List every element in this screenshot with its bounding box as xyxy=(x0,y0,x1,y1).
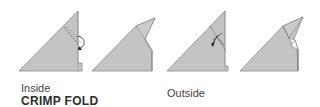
inside-step-1-diagram xyxy=(19,11,84,71)
crimp-fold-diagrams xyxy=(0,0,320,75)
outside-caption: Outside xyxy=(167,87,205,99)
figure-title: CRIMP FOLD xyxy=(21,94,98,107)
outside-step-1-diagram xyxy=(167,11,228,71)
inside-step-2-diagram xyxy=(92,18,155,71)
outside-step-2-diagram xyxy=(240,17,303,71)
inside-caption: Inside xyxy=(21,82,50,94)
